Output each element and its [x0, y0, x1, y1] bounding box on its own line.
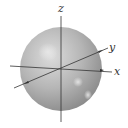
x-axis-label: x [114, 65, 121, 78]
sphere-diagram: z y x [0, 0, 128, 128]
z-axis-label: z [57, 2, 64, 15]
sphere-highlight [38, 43, 58, 61]
y-axis-label: y [108, 41, 116, 54]
sphere-highlight-lower [73, 77, 83, 87]
y-axis-arrow-icon [98, 50, 103, 53]
sphere-highlight-bottom [84, 90, 92, 100]
